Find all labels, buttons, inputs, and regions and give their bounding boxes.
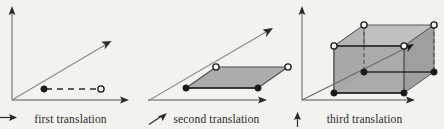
panel-first-translation: first translation [0,0,148,129]
front-bottom-right-vertex [401,90,407,96]
first-translation-diagram [0,0,148,110]
translation-sequence-figure: first translation [0,0,444,129]
back-top-left-vertex [361,22,367,28]
front-bottom-left-vertex [331,90,337,96]
caption-second-translation: second translation [148,112,292,125]
bottom-left-vertex [183,85,189,91]
caption-second-translation-label: second translation [173,113,259,125]
caption-first-translation-label: first translation [34,113,107,125]
diagonal-axis-arrowhead-icon [101,41,111,50]
back-top-right-vertex [431,22,437,28]
front-top-right-vertex [401,43,407,49]
third-translation-diagram [292,0,444,110]
caption-third-translation: third translation [292,112,444,125]
panel-second-translation: second translation [148,0,292,129]
back-bottom-right-vertex [431,69,437,75]
front-top-left-vertex [331,43,337,49]
bottom-right-vertex [255,85,261,91]
diagonal-axis [12,45,105,100]
caption-first-translation: first translation [0,112,148,125]
top-left-vertex [213,64,219,70]
panel-third-translation: third translation [292,0,444,129]
back-bottom-left-vertex [361,69,367,75]
origin-point [41,86,47,92]
caption-third-translation-label: third translation [327,113,403,125]
top-right-vertex [285,64,291,70]
prism-front-face [334,46,404,93]
second-translation-diagram [148,0,296,110]
translated-point [98,86,104,92]
